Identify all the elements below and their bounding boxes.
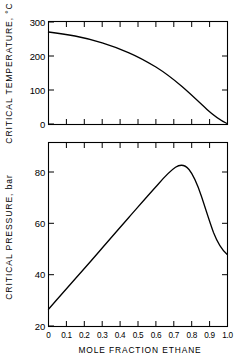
top-x-ticks-top: [66, 22, 209, 28]
bottom-plot-frame: [49, 143, 228, 327]
bottom-y-ticks-right: [222, 172, 228, 275]
bottom-ytick-label-20: 20: [35, 321, 45, 332]
critical-temperature-curve: [49, 32, 228, 124]
bottom-ytick-label-40: 40: [35, 269, 45, 280]
bottom-xaxis-title: MOLE FRACTION ETHANE: [78, 345, 201, 355]
critical-pressure-curve: [49, 165, 228, 309]
bottom-xtick-label-9: 0.9: [204, 331, 215, 340]
bottom-ytick-label-80: 80: [35, 167, 45, 178]
top-panel: 0 100 200 300 CRITICAL TEMPERATURE, °C: [4, 2, 228, 143]
bottom-xtick-label-7: 0.7: [169, 331, 180, 340]
bottom-y-ticks: [49, 172, 55, 326]
top-y-ticks-right: [222, 56, 228, 90]
top-yaxis-title: CRITICAL TEMPERATURE, °C: [4, 2, 14, 143]
chart-svg: 0 100 200 300 CRITICAL TEMPERATURE, °C: [0, 0, 244, 361]
bottom-xtick-label-3: 0.3: [97, 331, 108, 340]
top-x-ticks-bottom: [66, 119, 209, 125]
bottom-xtick-label-5: 0.5: [133, 331, 144, 340]
bottom-xtick-label-6: 0.6: [151, 331, 162, 340]
bottom-xtick-label-4: 0.4: [115, 331, 126, 340]
top-ytick-label-0: 0: [40, 119, 45, 130]
bottom-xtick-label-8: 0.8: [186, 331, 197, 340]
top-plot-frame: [49, 22, 228, 125]
bottom-ytick-label-60: 60: [35, 218, 45, 229]
bottom-xtick-label-1: 0.1: [61, 331, 72, 340]
bottom-yaxis-title: CRITICAL PRESSURE, bar: [4, 174, 14, 300]
top-ytick-label-300: 300: [30, 17, 45, 28]
bottom-xtick-label-2: 0.2: [79, 331, 90, 340]
figure-container: 0 100 200 300 CRITICAL TEMPERATURE, °C: [0, 0, 244, 361]
top-ytick-label-200: 200: [30, 51, 45, 62]
bottom-xtick-label-10: 1.0: [222, 331, 233, 340]
bottom-x-ticks-top: [66, 143, 209, 149]
bottom-xtick-label-0: 0: [46, 331, 51, 340]
top-y-ticks: [49, 22, 55, 124]
bottom-x-ticks-bottom: [66, 321, 209, 327]
bottom-panel: 20 40 60 80 0 0.1 0.2 0.3 0.4 0.5 0.6 0.…: [4, 143, 233, 356]
top-ytick-label-100: 100: [30, 85, 45, 96]
